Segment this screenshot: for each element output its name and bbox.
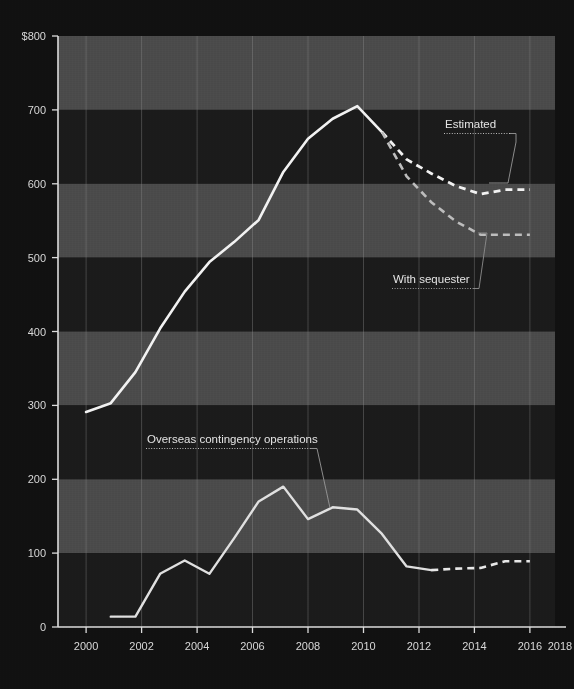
annotation-oco-label: Overseas contingency operations: [147, 433, 318, 445]
y-tick-label: $800: [22, 30, 46, 42]
y-tick-label: 400: [28, 326, 46, 338]
x-tick-label: 2012: [407, 640, 431, 652]
x-tick-label: 2010: [351, 640, 375, 652]
y-tick-label: 300: [28, 399, 46, 411]
y-tick-label: 100: [28, 547, 46, 559]
x-axis: [58, 627, 566, 633]
x-tick-label: 2004: [185, 640, 209, 652]
y-tick-label: 500: [28, 252, 46, 264]
y-tick-label: 0: [40, 621, 46, 633]
x-tick-label: 2006: [240, 640, 264, 652]
y-tick-label: 600: [28, 178, 46, 190]
x-tick-label: 2000: [74, 640, 98, 652]
x-tick-labels: 2000 2002 2004 2006 2008 2010 2012 2014 …: [74, 640, 572, 652]
y-axis: [52, 36, 58, 627]
chart-container: $800 700 600 500 400 300 200 100 0 2000: [0, 0, 574, 689]
annotation-with-sequester-label: With sequester: [393, 273, 470, 285]
y-tick-label: 700: [28, 104, 46, 116]
annotation-estimated-label: Estimated: [445, 118, 496, 130]
x-tick-label: 2002: [129, 640, 153, 652]
y-tick-label: 200: [28, 473, 46, 485]
y-tick-labels: $800 700 600 500 400 300 200 100 0: [22, 30, 46, 633]
x-tick-label: 2016: [518, 640, 542, 652]
x-tick-label: 2018: [548, 640, 572, 652]
x-tick-label: 2014: [462, 640, 486, 652]
x-tick-label: 2008: [296, 640, 320, 652]
line-chart: $800 700 600 500 400 300 200 100 0 2000: [0, 0, 574, 689]
